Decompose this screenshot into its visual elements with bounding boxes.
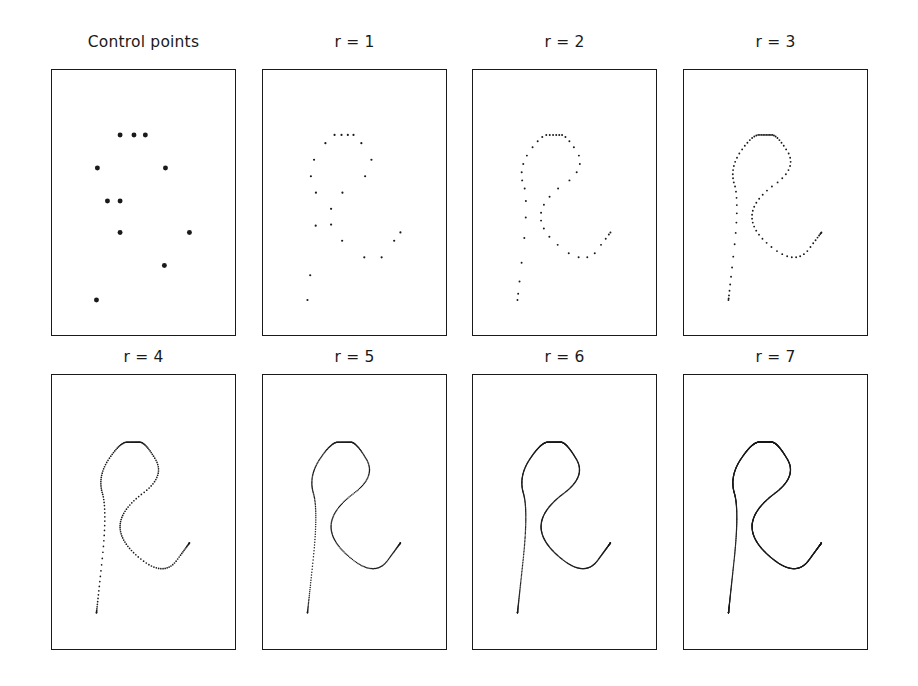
point-series-r3 xyxy=(728,134,823,301)
panel-r2 xyxy=(472,69,657,336)
panel-plot-r6 xyxy=(473,375,656,649)
panel-plot-r5 xyxy=(263,375,446,649)
panel-r7 xyxy=(683,374,868,650)
panel-title-r1: r = 1 xyxy=(262,33,447,51)
panel-r1 xyxy=(262,69,447,336)
point-series-r7 xyxy=(728,441,822,613)
panel-plot-r1 xyxy=(263,70,446,335)
panel-title-r7: r = 7 xyxy=(683,348,868,366)
panel-title-control-points: Control points xyxy=(51,33,236,51)
point-series-r6 xyxy=(517,441,611,613)
panel-title-r4: r = 4 xyxy=(51,348,236,366)
point-series-r1 xyxy=(306,134,401,301)
panel-title-r2: r = 2 xyxy=(472,33,657,51)
panel-plot-r2 xyxy=(473,70,656,335)
panel-control-points xyxy=(51,69,236,336)
panel-plot-r3 xyxy=(684,70,867,335)
panel-title-r5: r = 5 xyxy=(262,348,447,366)
panel-r5 xyxy=(262,374,447,650)
point-series-r5 xyxy=(307,441,401,613)
panel-r4 xyxy=(51,374,236,650)
subdivision-figure: Control pointsr = 1r = 2r = 3r = 4r = 5r… xyxy=(0,0,918,686)
panel-title-r3: r = 3 xyxy=(683,33,868,51)
point-series-r4 xyxy=(96,441,191,613)
panel-title-r6: r = 6 xyxy=(472,348,657,366)
panel-r6 xyxy=(472,374,657,650)
panel-r3 xyxy=(683,69,868,336)
point-series-r2 xyxy=(516,134,611,301)
point-series-control-points xyxy=(94,132,192,302)
panel-plot-r7 xyxy=(684,375,867,649)
panel-plot-r4 xyxy=(52,375,235,649)
panel-plot-control-points xyxy=(52,70,235,335)
